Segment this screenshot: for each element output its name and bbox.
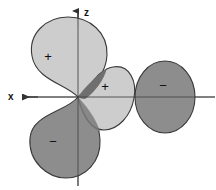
upper-left-lobe-sign: + [44,49,52,64]
lower-left-lobe-sign: − [49,134,57,149]
far-right-lobe-sign: − [159,78,167,93]
z-axis-label: z [84,7,89,18]
x-axis-label: x [8,91,14,102]
orbital-diagram-canvas: x z + + − − [0,0,216,190]
orbital-diagram-figure: x z + + − − [0,0,216,190]
middle-right-lobe-sign: + [101,79,109,94]
